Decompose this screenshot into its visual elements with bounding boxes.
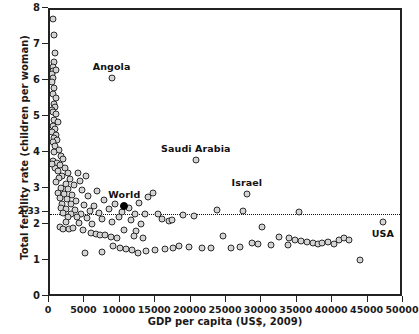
x-tick-mark	[367, 296, 368, 302]
fertility-gdp-scatter-chart: 0122.33345678 AngolaSaudi ArabiaWorldIsr…	[0, 0, 419, 334]
data-point	[214, 207, 221, 214]
x-tick-label: 35000	[279, 304, 312, 315]
plot-frame: AngolaSaudi ArabiaWorldIsraelUSA	[48, 8, 402, 296]
data-point	[259, 223, 266, 230]
data-point	[151, 246, 158, 253]
data-point	[86, 207, 93, 214]
data-point	[228, 244, 235, 251]
y-tick-label: 6	[33, 73, 40, 86]
data-point	[112, 200, 119, 207]
y-tick-label: 3	[33, 181, 40, 194]
x-tick-mark	[48, 296, 49, 302]
x-tick-mark	[225, 296, 226, 302]
data-point	[199, 244, 206, 251]
data-point	[161, 246, 168, 253]
y-tick-label: 1	[33, 253, 40, 266]
data-point	[51, 32, 58, 39]
data-point	[170, 245, 177, 252]
annotation-label-saudi-arabia: Saudi Arabia	[161, 143, 231, 154]
plot-area: AngolaSaudi ArabiaWorldIsraelUSA	[50, 10, 400, 294]
data-point-usa	[379, 218, 386, 225]
y-tick-label: 8	[33, 1, 40, 14]
data-point	[53, 67, 60, 74]
x-tick-label: 45000	[350, 304, 383, 315]
annotation-label-israel: Israel	[232, 177, 263, 188]
data-point	[78, 187, 85, 194]
data-point	[117, 244, 124, 251]
annotation-label-world: World	[108, 189, 140, 200]
data-point	[158, 215, 165, 222]
y-tick-label: 4	[33, 145, 40, 158]
y-axis-title: Total fertility rate (children per woman…	[19, 3, 30, 293]
data-point	[138, 220, 145, 227]
x-tick-label: 50000	[385, 304, 418, 315]
x-tick-mark	[83, 296, 84, 302]
data-point	[74, 170, 81, 177]
data-point	[143, 248, 150, 255]
data-point	[139, 235, 146, 242]
data-point	[106, 205, 113, 212]
annotation-label-usa: USA	[372, 228, 394, 239]
data-point	[113, 234, 120, 241]
x-tick-label: 15000	[138, 304, 171, 315]
data-point	[98, 215, 105, 222]
x-axis-title: GDP per capita (US$, 2009)	[48, 316, 402, 327]
x-tick-mark	[260, 296, 261, 302]
data-point	[116, 214, 123, 221]
data-point	[296, 209, 303, 216]
data-point	[85, 192, 92, 199]
data-point	[141, 211, 148, 218]
data-point	[208, 245, 215, 252]
x-tick-label: 10000	[102, 304, 135, 315]
data-point	[70, 224, 77, 231]
data-point	[130, 233, 137, 240]
data-point	[236, 243, 243, 250]
data-point	[144, 194, 151, 201]
x-tick-mark	[331, 296, 332, 302]
x-tick-label: 0	[45, 304, 52, 315]
data-point	[249, 240, 256, 247]
data-point	[51, 50, 58, 57]
data-point	[80, 226, 87, 233]
data-point	[128, 216, 135, 223]
data-point	[168, 217, 175, 224]
data-point	[267, 241, 274, 248]
data-point	[346, 237, 353, 244]
x-tick-label: 25000	[208, 304, 241, 315]
data-point	[120, 226, 127, 233]
y-tick-label: 7	[33, 37, 40, 50]
x-tick-label: 5000	[70, 304, 96, 315]
data-point	[220, 233, 227, 240]
data-point	[100, 197, 107, 204]
x-tick-label: 30000	[244, 304, 277, 315]
x-tick-label: 40000	[315, 304, 348, 315]
data-point	[136, 199, 143, 206]
data-point	[93, 187, 100, 194]
data-point	[50, 16, 56, 23]
data-point	[83, 173, 90, 180]
data-point	[50, 149, 57, 156]
data-point-saudi-arabia	[192, 157, 199, 164]
data-point	[123, 246, 130, 253]
annotation-label-angola: Angola	[93, 61, 131, 72]
data-point	[357, 256, 364, 263]
data-point	[99, 248, 106, 255]
data-point	[276, 233, 283, 240]
data-point-angola	[108, 75, 115, 82]
data-point	[284, 242, 291, 249]
y-tick-label: 5	[33, 109, 40, 122]
data-point	[191, 212, 198, 219]
data-point	[109, 219, 116, 226]
data-point	[89, 220, 96, 227]
x-tick-mark	[154, 296, 155, 302]
y-tick-label: 2	[33, 217, 40, 230]
data-point	[110, 243, 117, 250]
x-tick-label: 20000	[173, 304, 206, 315]
data-point	[180, 212, 187, 219]
x-tick-mark	[190, 296, 191, 302]
data-point-highlight-world	[120, 202, 128, 210]
data-point-israel	[243, 190, 250, 197]
data-point	[82, 250, 89, 257]
x-tick-mark	[119, 296, 120, 302]
x-tick-mark	[296, 296, 297, 302]
